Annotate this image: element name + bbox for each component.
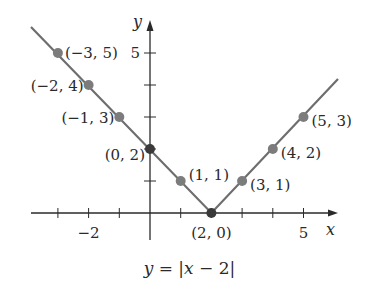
function-caption: y = |x − 2| [0,258,379,278]
point-label: (2, 0) [191,224,231,242]
point-label: (5, 3) [312,112,352,130]
data-point [84,80,94,90]
x-tick-label: −2 [78,224,100,242]
caption-x: x [184,258,194,278]
x-tick-label: 5 [299,224,309,242]
point-label: (−2, 4) [31,77,84,95]
graph-area: 5−25xy (−3, 5)(−2, 4)(−1, 3)(0, 2)(1, 1)… [0,0,379,294]
point-label: (−3, 5) [65,44,118,62]
data-point [299,112,309,122]
data-point [206,208,216,218]
point-label: (0, 2) [105,146,145,164]
point-label: (4, 2) [281,144,321,162]
data-point [114,112,124,122]
data-point [237,176,247,186]
x-axis-arrow-icon [328,210,338,217]
data-point [145,144,155,154]
point-label: (3, 1) [250,176,290,194]
caption-equals: = | [153,258,184,278]
point-label: (−1, 3) [61,109,114,127]
y-axis-arrow-icon [147,20,154,31]
data-point [268,144,278,154]
y-axis-label: y [132,12,143,31]
y-tick-label: 5 [130,44,140,62]
caption-y: y [144,258,154,278]
point-label: (1, 1) [189,166,229,184]
x-axis-label: x [326,220,335,239]
data-point [53,48,63,58]
data-point [176,176,186,186]
caption-rest: − 2| [194,258,236,278]
